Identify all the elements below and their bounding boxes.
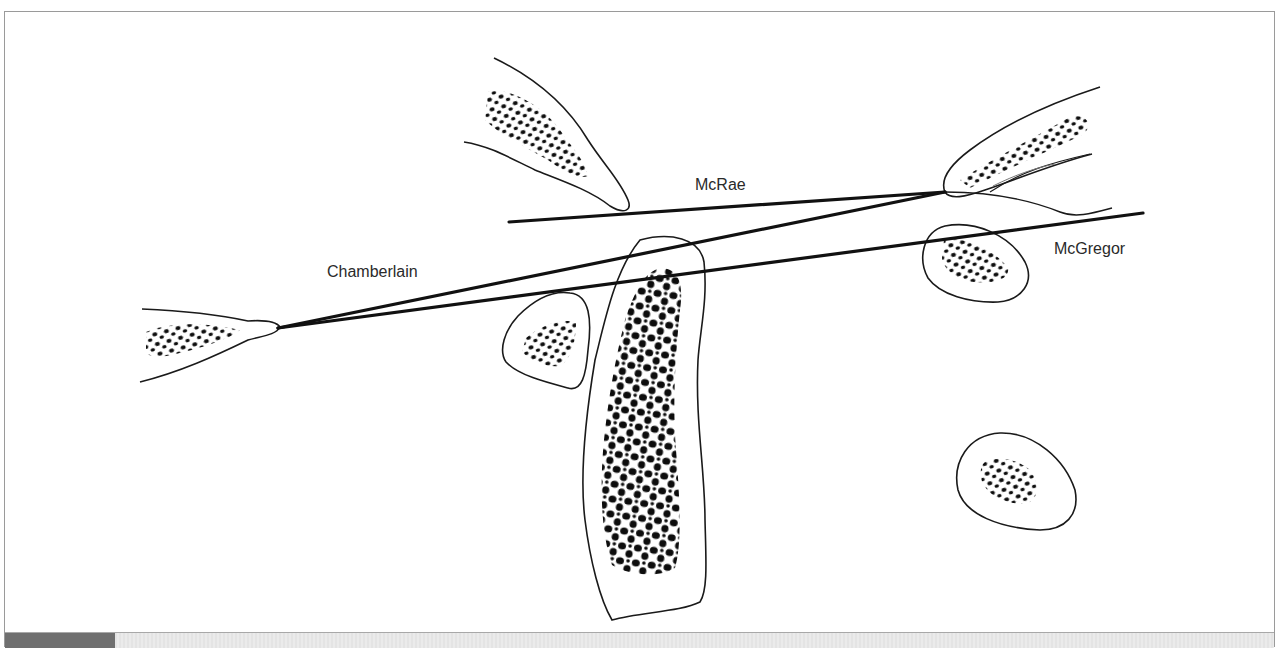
c2-spinous-process <box>957 433 1076 530</box>
clivus-bone <box>464 58 629 211</box>
chamberlain-label: Chamberlain <box>327 263 418 281</box>
caption-tab <box>5 633 115 648</box>
hard-palate-bone <box>944 87 1112 215</box>
odontoid-c2-bone <box>583 237 706 620</box>
occiput-bone <box>140 309 280 382</box>
caption-strip <box>115 633 1274 648</box>
mcgregor-label: McGregor <box>1054 240 1125 258</box>
chamberlain-line <box>278 192 945 328</box>
caption-bar <box>5 632 1274 648</box>
mcrae-line <box>509 192 945 222</box>
mcrae-label: McRae <box>695 176 746 194</box>
atlas-anterior-arch <box>503 293 590 389</box>
